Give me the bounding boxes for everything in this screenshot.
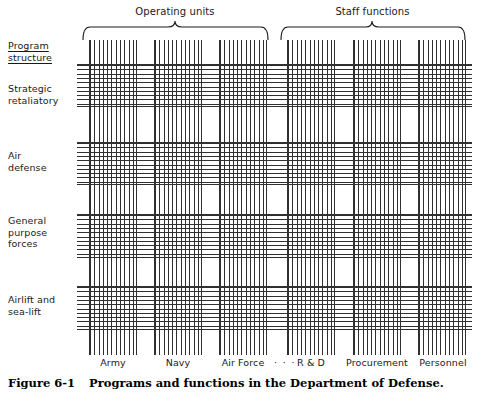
column-label-air-force: Air Force <box>211 357 275 368</box>
row-band-air-defense <box>77 142 472 185</box>
column-label-army: Army <box>81 357 145 368</box>
column-label-r-and-d: R & D <box>279 357 343 368</box>
figure-caption-text: Programs and functions in the Department… <box>89 376 444 390</box>
figure-caption-number: Figure 6-1 <box>8 376 75 390</box>
axis-label-program-structure: Program structure <box>8 40 52 63</box>
column-label-procurement: Procurement <box>340 357 414 368</box>
row-label-airlift-and-sea-lift: Airlift and sea-lift <box>8 294 55 317</box>
row-label-air-defense: Air defense <box>8 150 47 173</box>
row-band-airlift-and-sea-lift <box>77 286 472 330</box>
row-band-strategic-retaliatory <box>77 64 472 107</box>
row-band-general-purpose-forces <box>77 214 472 258</box>
figure-caption: Figure 6-1Programs and functions in the … <box>8 376 444 390</box>
row-label-strategic-retaliatory: Strategic retaliatory <box>8 83 58 106</box>
figure-root: Operating units Staff functions Program … <box>0 0 489 401</box>
matrix-grid <box>0 0 489 401</box>
row-label-general-purpose-forces: General purpose forces <box>8 215 47 250</box>
column-label-navy: Navy <box>146 357 210 368</box>
column-label-personnel: Personnel <box>411 357 475 368</box>
